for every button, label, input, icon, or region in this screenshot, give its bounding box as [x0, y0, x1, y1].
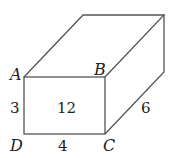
- vertex-label-d: D: [9, 136, 23, 155]
- vertex-label-a: A: [8, 65, 22, 84]
- depth-label: 6: [141, 99, 151, 117]
- height-label: 3: [10, 99, 20, 117]
- prism-diagram: A B C D 3 4 6 12: [0, 0, 171, 158]
- front-face-area-label: 12: [57, 99, 76, 117]
- width-label: 4: [58, 137, 68, 155]
- vertex-label-c: C: [103, 136, 115, 155]
- vertex-label-b: B: [93, 60, 106, 79]
- right-face: [105, 15, 164, 134]
